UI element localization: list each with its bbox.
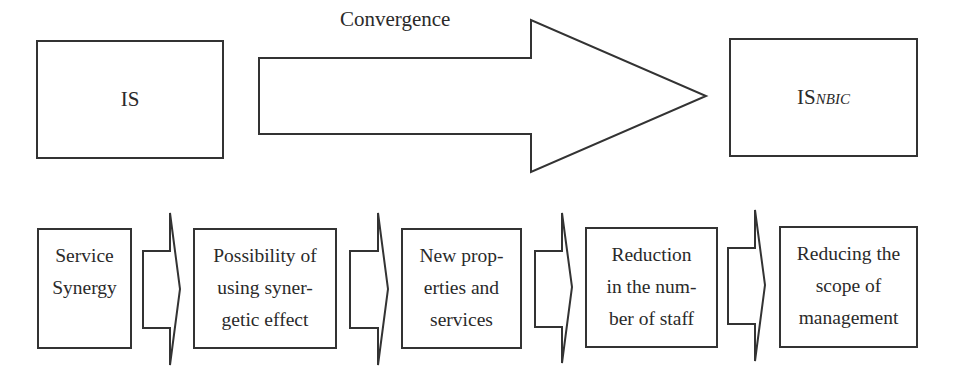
step-text: Service Synergy [52,240,117,347]
step-staff-reduction: Reduction in the num- ber of staff [585,227,718,348]
step-service-synergy: Service Synergy [37,228,132,349]
target-box-label: ISNBIC [797,85,850,110]
step-text: Reduction in the num- ber of staff [607,239,697,346]
step-arrow-2 [350,213,388,365]
target-box-is-nbic: ISNBIC [729,38,918,157]
target-box-subscript: NBIC [816,91,850,107]
step-arrow-3 [535,213,572,363]
source-box-label: IS [121,87,140,112]
convergence-arrow [259,20,706,172]
step-new-properties: New prop- erties and services [401,228,522,349]
step-text: Reducing the scope of management [797,238,900,346]
convergence-label: Convergence [340,7,450,32]
step-text: Possibility of using syner- getic effect [213,240,316,347]
step-arrow-4 [728,210,765,361]
step-synergetic-effect: Possibility of using syner- getic effect [193,228,337,349]
step-text: New prop- erties and services [420,240,504,347]
step-reducing-management: Reducing the scope of management [779,226,918,348]
source-box-is: IS [36,40,224,159]
step-arrow-1 [143,213,180,365]
